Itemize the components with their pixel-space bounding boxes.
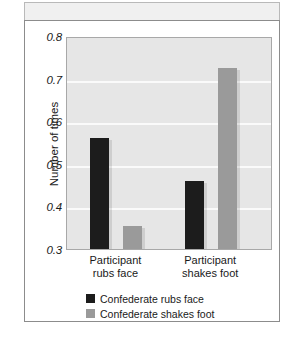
x-axis-label-line: Participant: [155, 254, 265, 267]
bar: [185, 181, 204, 249]
bar: [90, 138, 109, 249]
x-axis-label-line: Participant: [60, 254, 170, 267]
y-tick-label: 0.4: [22, 201, 62, 213]
legend-item: Confederate shakes foot: [86, 307, 214, 320]
figure-page: Number of times 0.80.70.60.50.40.3 Parti…: [0, 0, 301, 344]
figure-header-band: [24, 2, 280, 20]
plot-area: [66, 37, 272, 250]
bar: [123, 226, 142, 249]
legend: Confederate rubs faceConfederate shakes …: [86, 292, 214, 322]
x-axis-label-line: rubs face: [60, 267, 170, 280]
legend-label: Confederate rubs face: [100, 293, 204, 305]
bar: [218, 68, 237, 249]
y-tick-label: 0.5: [22, 159, 62, 171]
y-tick-label: 0.8: [22, 31, 62, 43]
legend-item: Confederate rubs face: [86, 292, 214, 305]
gridline: [67, 81, 271, 83]
x-axis-label-line: shakes foot: [155, 267, 265, 280]
gridline: [67, 123, 271, 125]
y-tick-label: 0.7: [22, 74, 62, 86]
y-tick-label: 0.6: [22, 116, 62, 128]
x-axis-label: Participantshakes foot: [155, 254, 265, 280]
legend-swatch-icon: [86, 294, 95, 303]
y-axis-ticks: 0.80.70.60.50.40.3: [18, 37, 62, 250]
x-axis-label: Participantrubs face: [60, 254, 170, 280]
y-tick-label: 0.3: [22, 244, 62, 256]
legend-swatch-icon: [86, 309, 95, 318]
legend-label: Confederate shakes foot: [100, 308, 214, 320]
